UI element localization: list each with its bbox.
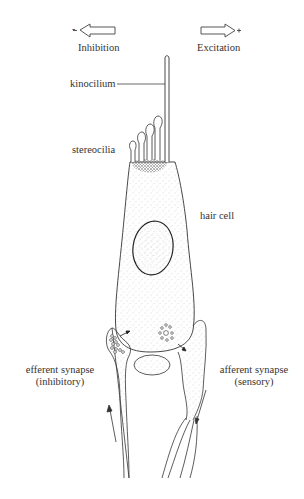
diagram-drawing bbox=[0, 0, 304, 499]
efferent-synapse-line2: (inhibitory) bbox=[18, 376, 102, 388]
afferent-synapse-line2: (sensory) bbox=[212, 376, 296, 388]
afferent-synapse-line1: afferent synapse bbox=[212, 364, 296, 376]
inhibition-label: Inhibition bbox=[78, 42, 119, 54]
inhibition-arrow-icon bbox=[73, 24, 115, 37]
stereocilia-label: stereocilia bbox=[72, 144, 115, 156]
stereocilia-bundle bbox=[130, 116, 163, 162]
afferent-synapse-label: afferent synapse (sensory) bbox=[212, 364, 296, 388]
hair-cell-label: hair cell bbox=[200, 210, 234, 222]
excitation-arrow-icon bbox=[201, 24, 241, 37]
efferent-synapse-line1: efferent synapse bbox=[18, 364, 102, 376]
kinocilium-label: kinocilium bbox=[70, 78, 116, 90]
minus-sign: - bbox=[72, 23, 75, 35]
supporting-cell bbox=[134, 355, 170, 375]
excitation-label: Excitation bbox=[197, 42, 240, 54]
hair-cell-diagram: - Inhibition Excitation kinocilium stere… bbox=[0, 0, 304, 499]
efferent-synapse-label: efferent synapse (inhibitory) bbox=[18, 364, 102, 388]
kinocilium bbox=[165, 56, 169, 162]
afferent-nerve-fibers bbox=[162, 416, 197, 478]
